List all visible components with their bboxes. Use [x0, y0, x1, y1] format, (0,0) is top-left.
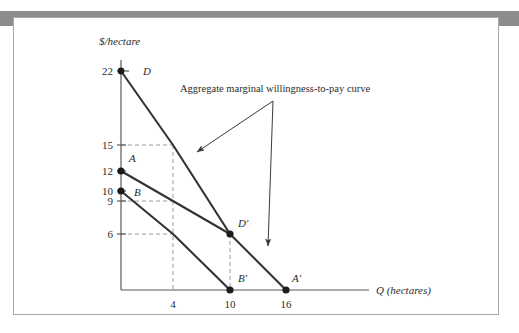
curve-B [121, 191, 230, 290]
economics-chart: Aggregate marginal willingness-to-pay cu… [14, 18, 498, 314]
point-label-B: B [134, 186, 141, 198]
marker-D [118, 68, 125, 75]
x-tick-label-4: 4 [170, 298, 176, 310]
y-tick-label-12: 12 [102, 165, 113, 177]
marker-B-prime [226, 286, 233, 293]
point-label-A-prime: A′ [291, 272, 302, 284]
annotation-label: Aggregate marginal willingness-to-pay cu… [180, 83, 371, 94]
y-tick-label-15: 15 [102, 139, 114, 151]
curve-D [121, 71, 230, 234]
guide-lines [121, 145, 230, 290]
y-axis-title: $/hectare [99, 35, 140, 47]
y-axis-ticks [117, 71, 129, 234]
marker-B [117, 187, 124, 194]
y-tick-labels: 22 15 12 10 9 6 [102, 65, 114, 240]
curve-aggregate [121, 171, 286, 290]
point-label-D-prime: D′ [237, 217, 249, 229]
axes [121, 60, 369, 290]
x-tick-label-16: 16 [281, 298, 293, 310]
x-tick-labels: 4 10 16 [170, 298, 292, 310]
x-tick-label-10: 10 [225, 298, 237, 310]
annotation-leader-right [268, 101, 273, 246]
annotation-leader-left [197, 101, 273, 152]
x-axis-title: Q (hectares) [376, 284, 431, 297]
figure-panel: Aggregate marginal willingness-to-pay cu… [13, 17, 499, 315]
marker-A-prime [282, 286, 289, 293]
marker-A [117, 167, 124, 174]
point-label-B-prime: B′ [238, 272, 248, 284]
annotation-leaders [197, 101, 273, 246]
y-tick-label-6: 6 [108, 228, 114, 240]
point-label-A: A [128, 152, 136, 164]
marker-D-prime [226, 230, 233, 237]
y-tick-label-9: 9 [108, 195, 114, 207]
point-label-D: D [142, 65, 151, 77]
y-tick-label-22: 22 [102, 65, 113, 77]
point-labels: D A B D′ B′ A′ [128, 65, 302, 284]
figure-page: Aggregate marginal willingness-to-pay cu… [0, 0, 519, 333]
